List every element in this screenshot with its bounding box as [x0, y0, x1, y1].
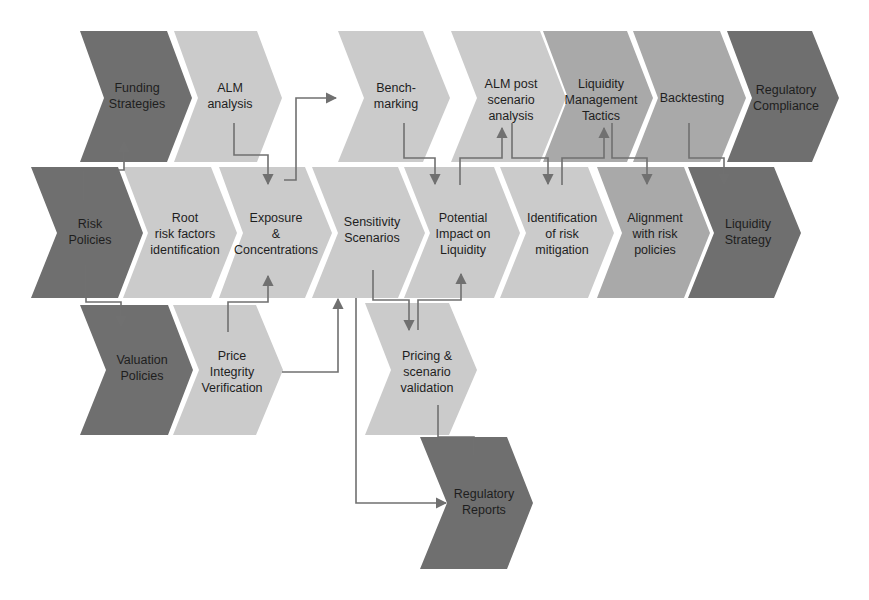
chevron-funding-strategies: [80, 31, 192, 162]
connector-price-integrity-to-sensitivity: [282, 299, 338, 372]
chevron-pricing-scenario-validation: [365, 303, 477, 435]
diagram-canvas: [0, 0, 869, 600]
process-flow-diagram: Funding Strategies ALM analysis Bench- m…: [0, 0, 869, 600]
chevron-risk-policies: [31, 167, 143, 298]
chevron-alm-post-scenario-analysis: [451, 31, 566, 162]
chevron-valuation-policies: [80, 305, 193, 435]
chevron-benchmarking: [338, 31, 450, 162]
chevron-alignment-with-risk-policies: [597, 167, 710, 298]
